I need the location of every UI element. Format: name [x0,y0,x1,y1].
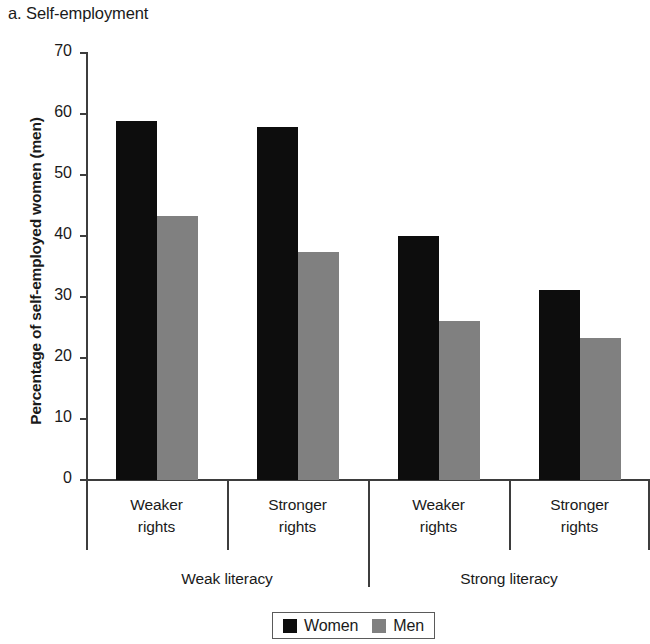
group-label-1: Weak literacy [86,570,368,588]
bar-women-2 [257,127,298,480]
category-label-line: Weaker [86,494,227,516]
bar-men-4 [580,338,621,480]
legend-label-women: Women [304,617,358,635]
legend-swatch-men [372,619,386,633]
y-tick-label: 60 [0,103,72,121]
category-label-3: Weakerrights [368,494,509,538]
bar-men-2 [298,252,339,480]
category-label-line: Stronger [227,494,368,516]
bar-women-3 [398,236,439,480]
category-label-line: rights [368,516,509,538]
chart-legend: Women Men [272,612,435,639]
y-tick-label: 30 [0,286,72,304]
category-label-line: rights [86,516,227,538]
y-tick-label: 50 [0,164,72,182]
category-label-1: Weakerrights [86,494,227,538]
legend-item-men: Men [372,617,424,635]
y-tick-label: 10 [0,408,72,426]
y-tick-label: 20 [0,347,72,365]
bar-men-1 [157,216,198,480]
category-label-line: rights [227,516,368,538]
category-label-4: Strongerrights [509,494,650,538]
y-tick-label: 70 [0,42,72,60]
y-tick-label: 0 [0,469,72,487]
bar-men-3 [439,321,480,480]
legend-label-men: Men [393,617,424,635]
category-label-line: Stronger [509,494,650,516]
category-label-line: Weaker [368,494,509,516]
category-label-line: rights [509,516,650,538]
figure-title: a. Self-employment [8,4,148,23]
legend-item-women: Women [283,617,358,635]
figure-self-employment: a. Self-employment Percentage of self-em… [0,0,650,644]
group-label-2: Strong literacy [368,570,650,588]
legend-swatch-women [283,619,297,633]
bar-women-1 [116,121,157,480]
bars-layer [86,53,650,480]
bar-women-4 [539,290,580,480]
y-tick-label: 40 [0,225,72,243]
category-label-2: Strongerrights [227,494,368,538]
